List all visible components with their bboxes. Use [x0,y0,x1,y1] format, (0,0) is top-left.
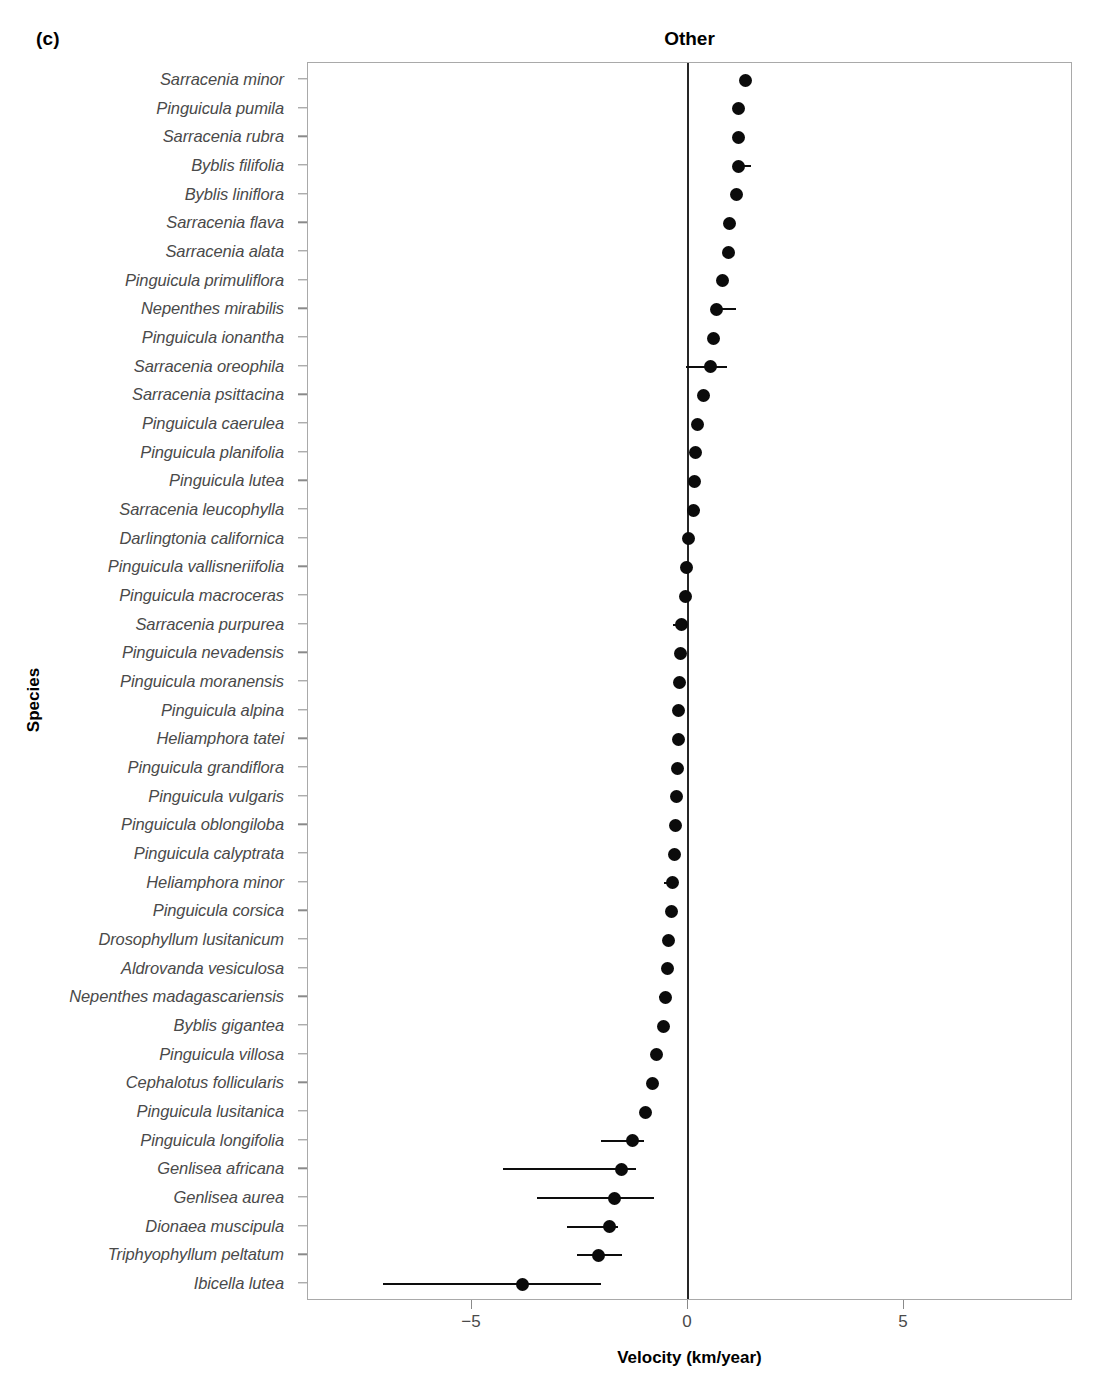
x-axis-tick-mark [687,1300,688,1309]
y-axis-tick-mark [298,594,307,595]
y-axis-tick-label: Genlisea aurea [173,1188,284,1207]
data-point[interactable] [672,733,685,746]
y-axis-tick-mark [298,1196,307,1197]
data-point[interactable] [646,1077,659,1090]
data-point[interactable] [732,131,745,144]
y-axis-tick-label: Pinguicula planifolia [140,442,284,461]
error-bar [383,1283,601,1285]
data-point[interactable] [707,332,720,345]
y-axis-tick-mark [298,480,307,481]
data-point[interactable] [689,446,702,459]
y-axis-tick-label: Byblis liniflora [185,184,284,203]
data-point[interactable] [615,1163,628,1176]
y-axis-tick-label: Pinguicula corsica [153,901,284,920]
data-point[interactable] [670,790,683,803]
y-axis-tick-label: Pinguicula calyptrata [134,844,284,863]
y-axis-tick-label: Byblis gigantea [174,1016,284,1035]
y-axis-tick-mark [298,193,307,194]
y-axis-tick-mark [298,652,307,653]
data-point[interactable] [680,561,693,574]
data-point[interactable] [704,360,717,373]
y-axis-tick-label: Byblis filifolia [191,156,284,175]
y-axis-tick-label: Pinguicula caerulea [142,414,284,433]
data-point[interactable] [716,274,729,287]
y-axis-tick-label: Pinguicula lutea [169,471,284,490]
data-point[interactable] [650,1048,663,1061]
y-axis-tick-mark [298,766,307,767]
y-axis-labels: Sarracenia minorPinguicula pumilaSarrace… [0,0,300,1400]
data-point[interactable] [657,1020,670,1033]
y-axis-tick-mark [298,996,307,997]
data-point[interactable] [672,704,685,717]
y-axis-tick-label: Pinguicula nevadensis [122,643,284,662]
y-axis-tick-mark [298,107,307,108]
data-point[interactable] [516,1278,529,1291]
data-point[interactable] [682,532,695,545]
y-axis-tick-mark [298,336,307,337]
data-point[interactable] [688,475,701,488]
x-axis-title: Velocity (km/year) [307,1348,1072,1368]
data-point[interactable] [603,1220,616,1233]
data-point[interactable] [639,1106,652,1119]
y-axis-tick-label: Pinguicula moranensis [120,672,284,691]
y-axis-tick-label: Pinguicula vulgaris [148,786,284,805]
data-point[interactable] [732,102,745,115]
data-point[interactable] [666,876,679,889]
y-axis-tick-mark [298,623,307,624]
plot-area [307,62,1072,1300]
y-axis-tick-mark [298,136,307,137]
y-axis-tick-mark [298,824,307,825]
y-axis-tick-mark [298,852,307,853]
y-axis-tick-mark [298,1254,307,1255]
y-axis-tick-mark [298,795,307,796]
y-axis-tick-label: Dionaea muscipula [145,1216,284,1235]
y-axis-tick-label: Pinguicula vallisneriifolia [108,557,284,576]
y-axis-tick-label: Sarracenia flava [166,213,284,232]
x-axis-tick-mark [471,1300,472,1309]
y-axis-tick-mark [298,250,307,251]
data-point[interactable] [673,676,686,689]
y-axis-tick-mark [298,451,307,452]
y-axis-tick-label: Drosophyllum lusitanicum [98,930,284,949]
data-point[interactable] [592,1249,605,1262]
data-point[interactable] [730,188,743,201]
y-axis-tick-mark [298,308,307,309]
y-axis-tick-mark [298,709,307,710]
data-point[interactable] [697,389,710,402]
y-axis-tick-mark [298,78,307,79]
y-axis-tick-mark [298,910,307,911]
y-axis-tick-mark [298,537,307,538]
data-point[interactable] [671,762,684,775]
y-axis-tick-label: Sarracenia rubra [163,127,284,146]
y-axis-tick-mark [298,365,307,366]
data-point[interactable] [661,962,674,975]
data-point[interactable] [665,905,678,918]
y-axis-tick-mark [298,1225,307,1226]
data-point[interactable] [723,217,736,230]
y-axis-tick-label: Pinguicula primuliflora [125,270,284,289]
y-axis-tick-mark [298,279,307,280]
y-axis-tick-mark [298,938,307,939]
y-axis-tick-mark [298,422,307,423]
x-axis-tick-label: 0 [682,1312,691,1332]
data-point[interactable] [626,1134,639,1147]
data-point[interactable] [722,246,735,259]
data-point[interactable] [710,303,723,316]
y-axis-tick-label: Nepenthes mirabilis [141,299,284,318]
data-point[interactable] [687,504,700,517]
data-point[interactable] [732,160,745,173]
data-point[interactable] [668,848,681,861]
data-point[interactable] [674,647,687,660]
y-axis-tick-label: Genlisea africana [157,1159,284,1178]
data-point[interactable] [662,934,675,947]
data-point[interactable] [691,418,704,431]
data-point[interactable] [669,819,682,832]
y-axis-tick-mark [298,1110,307,1111]
y-axis-tick-mark [298,566,307,567]
data-point[interactable] [679,590,692,603]
data-point[interactable] [659,991,672,1004]
data-point[interactable] [608,1192,621,1205]
data-point[interactable] [739,74,752,87]
chart-title: Other [307,28,1072,50]
error-bar [537,1197,654,1199]
